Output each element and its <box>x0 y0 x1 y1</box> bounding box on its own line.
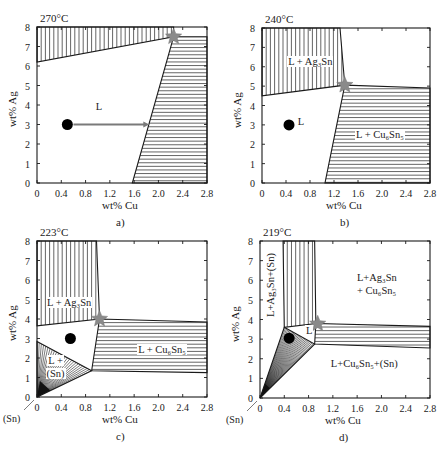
y-tick-label: 1 <box>248 373 253 384</box>
y-tick-label: 3 <box>250 120 255 131</box>
y-tick-label: 2 <box>25 139 30 150</box>
phase-region-label: L + Ag₃Sn <box>46 297 92 308</box>
y-axis-label: wt% Ag <box>7 91 18 127</box>
sn-corner-label: (Sn) <box>226 414 243 425</box>
panel-caption: c) <box>116 431 125 442</box>
y-tick-label: 2 <box>250 139 255 150</box>
y-tick-label: 7 <box>25 256 30 267</box>
panel-d: 00.40.81.21.62.02.42.8012345678(Sn)L+Ag₃… <box>223 226 446 452</box>
x-tick-label: 0 <box>254 188 270 199</box>
x-tick-label: 1.2 <box>102 188 118 199</box>
y-tick-label: 0 <box>25 392 30 403</box>
x-tick-label: 2.0 <box>150 188 166 199</box>
y-tick-label: 1 <box>25 159 30 170</box>
y-tick-label: 1 <box>25 373 30 384</box>
y-tick-label: 2 <box>25 353 30 364</box>
x-tick-label: 0.4 <box>278 188 294 199</box>
x-tick-label: 2.0 <box>373 403 389 414</box>
x-tick-label: 1.6 <box>126 402 142 413</box>
x-tick-label: 2.8 <box>422 188 438 199</box>
x-axis-label: wt% Cu <box>102 414 138 425</box>
y-tick-label: 3 <box>25 334 30 345</box>
temperature-label: 240°C <box>265 14 293 25</box>
y-tick-label: 8 <box>248 236 253 247</box>
phase-region-label: L + Cu₆Sn₅ <box>355 129 405 140</box>
x-tick-label: 2.8 <box>199 402 215 413</box>
phase-region-label: L + Ag₃Sn <box>287 56 333 67</box>
y-tick-label: 6 <box>25 275 30 286</box>
alloy-composition-dot-icon <box>65 333 76 344</box>
y-tick-label: 6 <box>248 275 253 286</box>
alloy-composition-dot-icon <box>284 333 295 344</box>
three-phase-point-star-icon <box>92 311 108 326</box>
y-tick-label: 4 <box>25 314 30 325</box>
phase-region-label: L <box>95 101 103 112</box>
y-tick-label: 4 <box>250 101 255 112</box>
y-tick-label: 5 <box>250 81 255 92</box>
y-tick-label: 6 <box>25 61 30 72</box>
temperature-label: 223°C <box>40 227 68 238</box>
x-tick-label: 2.4 <box>398 403 414 414</box>
y-tick-label: 3 <box>248 334 253 345</box>
x-axis-label: wt% Cu <box>102 200 138 211</box>
y-axis-label: wt% Ag <box>232 92 243 128</box>
phase-region-label: + Cu₆Sn₅ <box>356 285 397 296</box>
phase-region-label: L + <box>47 355 64 366</box>
y-tick-label: 8 <box>25 22 30 33</box>
x-tick-label: 1.2 <box>326 188 342 199</box>
axes-frame <box>260 241 430 398</box>
x-tick-label: 2.0 <box>374 188 390 199</box>
x-tick-label: 0.8 <box>301 403 317 414</box>
y-tick-label: 6 <box>250 62 255 73</box>
y-tick-label: 1 <box>250 159 255 170</box>
phase-region-label: L <box>305 325 313 336</box>
x-axis-label: wt% Cu <box>325 415 361 426</box>
x-tick-label: 0 <box>29 402 45 413</box>
y-tick-label: 0 <box>250 178 255 189</box>
y-tick-label: 0 <box>25 178 30 189</box>
x-tick-label: 2.8 <box>199 188 215 199</box>
x-axis-label: wt% Cu <box>326 200 362 211</box>
y-tick-label: 0 <box>248 393 253 404</box>
phase-region-label: L+Cu₆Sn₅+(Sn) <box>330 358 399 369</box>
x-tick-label: 0.8 <box>78 188 94 199</box>
y-axis-label: wt% Ag <box>230 306 241 342</box>
y-tick-label: 2 <box>248 354 253 365</box>
alloy-composition-dot-icon <box>62 119 73 130</box>
x-tick-label: 1.2 <box>102 402 118 413</box>
y-tick-label: 3 <box>25 120 30 131</box>
temperature-label: 270°C <box>40 13 68 24</box>
x-tick-label: 0.8 <box>302 188 318 199</box>
y-tick-label: 7 <box>248 256 253 267</box>
three-phase-point-star-icon <box>337 77 353 92</box>
panel-a: 00.40.81.21.62.02.42.8012345678L270°Cwt%… <box>0 0 223 226</box>
x-tick-label: 2.8 <box>422 403 438 414</box>
x-tick-label: 0.4 <box>53 402 69 413</box>
y-tick-label: 5 <box>25 295 30 306</box>
panel-b: 00.40.81.21.62.02.42.8012345678L + Ag₃Sn… <box>223 0 446 226</box>
x-tick-label: 2.0 <box>150 402 166 413</box>
y-tick-label: 5 <box>248 295 253 306</box>
x-tick-label: 0.4 <box>276 403 292 414</box>
y-axis-label: wt% Ag <box>7 305 18 341</box>
panel-caption: d) <box>339 432 348 443</box>
x-tick-label: 2.4 <box>175 188 191 199</box>
y-tick-label: 7 <box>250 42 255 53</box>
alloy-composition-dot-icon <box>284 119 295 130</box>
y-tick-label: 4 <box>25 100 30 111</box>
x-tick-label: 2.4 <box>175 402 191 413</box>
phase-region-label: L + Cu₆Sn₅ <box>137 344 187 355</box>
y-tick-label: 8 <box>25 236 30 247</box>
x-tick-label: 1.6 <box>350 188 366 199</box>
x-tick-label: 0.4 <box>53 188 69 199</box>
panel-c: 00.40.81.21.62.02.42.8012345678(Sn)L + A… <box>0 226 223 452</box>
phase-region-label: (Sn) <box>46 368 66 379</box>
phase-region-label-vertical: L+Ag₃Sn+(Sn) <box>265 252 276 318</box>
x-tick-label: 1.2 <box>325 403 341 414</box>
phase-region-label: L <box>297 116 305 127</box>
sn-corner-label: (Sn) <box>3 413 20 424</box>
y-tick-label: 8 <box>250 23 255 34</box>
x-tick-label: 2.4 <box>398 188 414 199</box>
three-phase-point-star-icon <box>166 28 182 43</box>
y-tick-label: 4 <box>248 315 253 326</box>
